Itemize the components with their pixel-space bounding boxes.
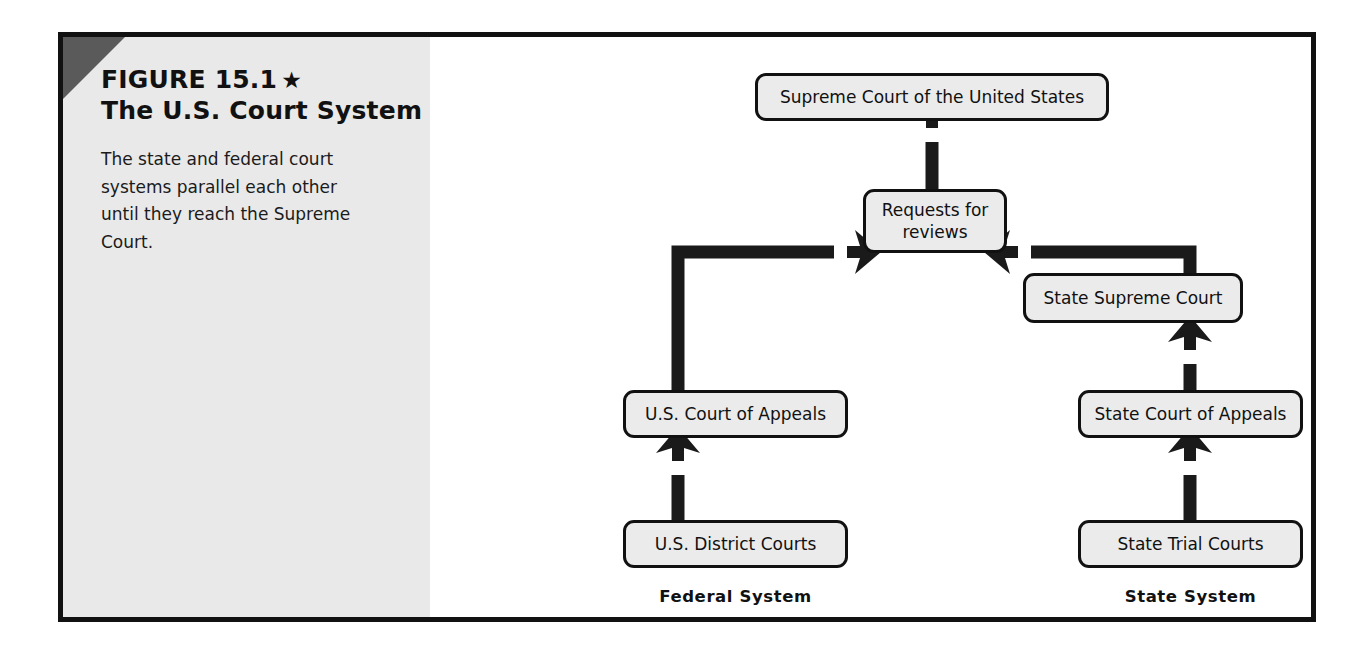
edge-state-trial-to-state-appeals — [1168, 427, 1212, 529]
edge-us-appeals-to-requests — [678, 230, 881, 399]
figure-description: The state and federal court systems para… — [101, 146, 351, 256]
edge-state-appeals-to-state-supreme — [1168, 316, 1212, 399]
column-label-state-system: State System — [1078, 587, 1303, 606]
node-state-supreme-court[interactable]: State Supreme Court — [1023, 273, 1243, 323]
edge-us-district-to-us-appeals — [656, 427, 700, 529]
diagram-area: Supreme Court of the United States Reque… — [430, 37, 1311, 617]
node-us-district-courts[interactable]: U.S. District Courts — [623, 520, 848, 568]
caption-panel: FIGURE 15.1★ The U.S. Court System The s… — [63, 37, 430, 617]
figure-frame: FIGURE 15.1★ The U.S. Court System The s… — [58, 32, 1316, 622]
column-label-federal-system: Federal System — [623, 587, 848, 606]
figure-screenshot: FIGURE 15.1★ The U.S. Court System The s… — [0, 0, 1363, 656]
figure-number: FIGURE 15.1 — [101, 65, 277, 94]
figure-title: The U.S. Court System — [101, 96, 401, 127]
node-supreme-court-of-the-united-states[interactable]: Supreme Court of the United States — [755, 73, 1109, 121]
node-us-court-of-appeals[interactable]: U.S. Court of Appeals — [623, 390, 848, 438]
node-state-trial-courts[interactable]: State Trial Courts — [1078, 520, 1303, 568]
star-icon: ★ — [281, 67, 302, 93]
node-state-court-of-appeals[interactable]: State Court of Appeals — [1078, 390, 1303, 438]
caption-content: FIGURE 15.1★ The U.S. Court System The s… — [101, 65, 401, 256]
node-requests-for-reviews[interactable]: Requests for reviews — [863, 189, 1007, 253]
figure-number-line: FIGURE 15.1★ — [101, 65, 401, 96]
